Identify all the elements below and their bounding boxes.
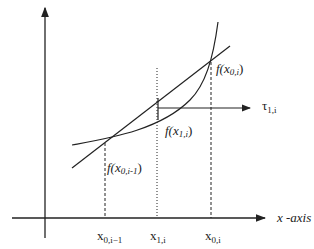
label-x0i: x0,i	[205, 228, 221, 245]
label-tau: τ1,i	[262, 98, 277, 115]
label-x0im1: x0,i−1	[97, 228, 122, 245]
label-x-axis: x -axis	[276, 210, 311, 225]
function-curve	[72, 22, 218, 145]
diagram-canvas: f(x0,i) f(x1,i) f(x0,i-1) τ1,i x0,i−1 x1…	[0, 0, 314, 249]
label-x1i: x1,i	[150, 228, 166, 245]
label-f-x0im1: f(x0,i-1)	[107, 160, 142, 176]
label-f-x0i: f(x0,i)	[216, 61, 243, 77]
label-f-x1i: f(x1,i)	[165, 123, 192, 139]
secant-line	[72, 46, 230, 168]
